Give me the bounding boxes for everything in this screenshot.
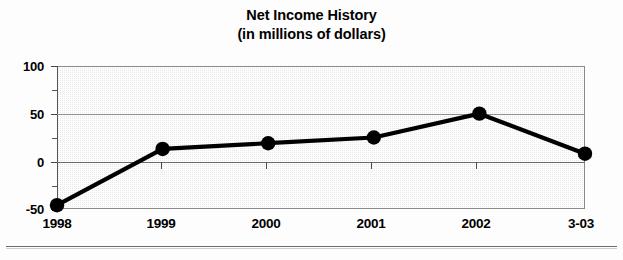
chart-title-line-1: Net Income History <box>246 7 376 23</box>
chart-title: Net Income History (in millions of dolla… <box>0 6 623 44</box>
plot-area <box>57 66 585 209</box>
footer-divider-shadow <box>6 248 617 249</box>
y-tick-100 <box>51 66 57 67</box>
net-income-history-chart: Net Income History (in millions of dolla… <box>0 0 623 260</box>
footer-divider <box>6 246 617 247</box>
x-axis-label-2001: 2001 <box>328 216 414 231</box>
x-axis-label-1998: 1998 <box>14 216 100 231</box>
y-tick-minor-neg25 <box>52 186 57 187</box>
y-tick-minor-75 <box>52 90 57 91</box>
x-tick-1999 <box>161 162 162 169</box>
x-tick-2002 <box>476 162 477 169</box>
y-axis-spine <box>57 66 58 210</box>
y-tick-minor-25 <box>52 138 57 139</box>
gridline-zero <box>57 162 585 163</box>
gridline-50 <box>57 114 585 115</box>
y-tick-0 <box>51 162 57 163</box>
y-axis-label-0: 0 <box>37 156 44 169</box>
y-axis-label-minus-50: -50 <box>26 203 44 216</box>
x-axis-label-2002: 2002 <box>433 216 519 231</box>
x-tick-2001 <box>371 162 372 169</box>
x-tick-2000 <box>266 162 267 169</box>
y-tick-minus-50 <box>51 209 57 210</box>
y-tick-50 <box>51 114 57 115</box>
chart-title-line-2: (in millions of dollars) <box>0 25 623 44</box>
y-axis-label-100: 100 <box>23 60 44 73</box>
x-axis-label-1999: 1999 <box>118 216 204 231</box>
y-axis-label-50: 50 <box>30 108 44 121</box>
x-axis-label-3-03: 3-03 <box>538 216 623 231</box>
x-axis-label-2000: 2000 <box>223 216 309 231</box>
